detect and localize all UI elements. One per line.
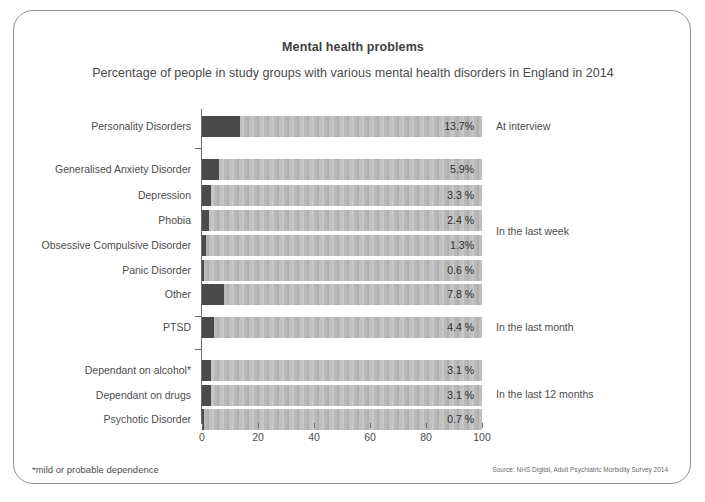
bar-row: 0.6 % xyxy=(202,260,482,281)
category-label-wrap: Other xyxy=(14,284,196,305)
bar-row: 4.4 % xyxy=(202,317,482,338)
group-separator-tick xyxy=(195,148,202,149)
x-axis-tick xyxy=(314,423,315,428)
category-label-wrap: Personality Disorders xyxy=(14,116,196,137)
bar-fill xyxy=(202,116,240,137)
category-label: Psychotic Disorder xyxy=(16,409,196,430)
bar-fill xyxy=(202,210,209,231)
x-axis-tick xyxy=(202,423,203,428)
x-axis-tick-label: 40 xyxy=(308,431,320,443)
bar-row: 2.4 % xyxy=(202,210,482,231)
bar-value-label: 4.4 % xyxy=(447,317,474,338)
bar-fill xyxy=(202,260,204,281)
bar-row: 7.8 % xyxy=(202,284,482,305)
category-label-wrap: Dependant on drugs xyxy=(14,385,196,406)
bar-track xyxy=(202,159,482,180)
x-axis-tick-label: 0 xyxy=(199,431,205,443)
x-axis-tick xyxy=(370,423,371,428)
bar-track xyxy=(202,116,482,137)
bar-value-label: 0.6 % xyxy=(447,260,474,281)
bar-fill xyxy=(202,360,211,381)
x-axis-tick xyxy=(482,423,483,428)
plot-area: 13.7%Personality Disorders5.9%Generalise… xyxy=(14,11,692,485)
group-annotation: In the last month xyxy=(496,321,574,333)
source-note: Source: NHS Digital, Adult Psychiatric M… xyxy=(492,466,668,473)
bar-fill xyxy=(202,317,214,338)
category-label: Personality Disorders xyxy=(16,116,196,137)
category-label: Dependant on drugs xyxy=(16,385,196,406)
category-label: Dependant on alcohol* xyxy=(16,360,196,381)
bar-track xyxy=(202,317,482,338)
bar-value-label: 3.1 % xyxy=(447,360,474,381)
bar-track xyxy=(202,185,482,206)
bar-value-label: 1.3% xyxy=(450,235,474,256)
bar-row: 0.7 % xyxy=(202,409,482,430)
bar-track xyxy=(202,210,482,231)
category-label: Panic Disorder xyxy=(16,260,196,281)
category-label: Phobia xyxy=(16,210,196,231)
bar-value-label: 0.7 % xyxy=(447,409,474,430)
bar-value-label: 3.1 % xyxy=(447,385,474,406)
group-separator-tick xyxy=(195,349,202,350)
bar-fill xyxy=(202,284,224,305)
category-label: PTSD xyxy=(16,317,196,338)
bar-row: 3.3 % xyxy=(202,185,482,206)
category-label-wrap: Generalised Anxiety Disorder xyxy=(14,159,196,180)
bar-row: 3.1 % xyxy=(202,385,482,406)
bar-row: 5.9% xyxy=(202,159,482,180)
category-label: Other xyxy=(16,284,196,305)
category-label-wrap: Obsessive Compulsive Disorder xyxy=(14,235,196,256)
footnote: *mild or probable dependence xyxy=(32,464,159,475)
category-label-wrap: Dependant on alcohol* xyxy=(14,360,196,381)
category-label-wrap: PTSD xyxy=(14,317,196,338)
x-axis-tick-label: 60 xyxy=(364,431,376,443)
x-axis-tick xyxy=(258,423,259,428)
group-annotation: At interview xyxy=(496,120,550,132)
bar-fill xyxy=(202,235,206,256)
bar-row: 1.3% xyxy=(202,235,482,256)
bar-row: 13.7% xyxy=(202,116,482,137)
bar-row: 3.1 % xyxy=(202,360,482,381)
bar-fill xyxy=(202,185,211,206)
bar-value-label: 13.7% xyxy=(444,116,474,137)
bar-track xyxy=(202,360,482,381)
category-label-wrap: Psychotic Disorder xyxy=(14,409,196,430)
category-label: Generalised Anxiety Disorder xyxy=(16,159,196,180)
group-separator-tick xyxy=(195,316,202,317)
x-axis-tick xyxy=(426,423,427,428)
bar-track xyxy=(202,260,482,281)
bar-track xyxy=(202,409,482,430)
bar-track xyxy=(202,284,482,305)
category-label: Obsessive Compulsive Disorder xyxy=(16,235,196,256)
x-axis-tick-label: 20 xyxy=(252,431,264,443)
x-axis-tick-label: 80 xyxy=(420,431,432,443)
bar-value-label: 7.8 % xyxy=(447,284,474,305)
bar-value-label: 3.3 % xyxy=(447,185,474,206)
chart-card: Mental health problems Percentage of peo… xyxy=(13,10,691,484)
category-label-wrap: Panic Disorder xyxy=(14,260,196,281)
category-label-wrap: Depression xyxy=(14,185,196,206)
bar-value-label: 5.9% xyxy=(450,159,474,180)
category-label: Depression xyxy=(16,185,196,206)
bar-fill xyxy=(202,159,219,180)
bar-value-label: 2.4 % xyxy=(447,210,474,231)
bar-track xyxy=(202,385,482,406)
bar-fill xyxy=(202,385,211,406)
x-axis-tick-label: 100 xyxy=(473,431,491,443)
group-annotation: In the last week xyxy=(496,225,569,237)
category-label-wrap: Phobia xyxy=(14,210,196,231)
group-annotation: In the last 12 months xyxy=(496,388,593,400)
bar-track xyxy=(202,235,482,256)
